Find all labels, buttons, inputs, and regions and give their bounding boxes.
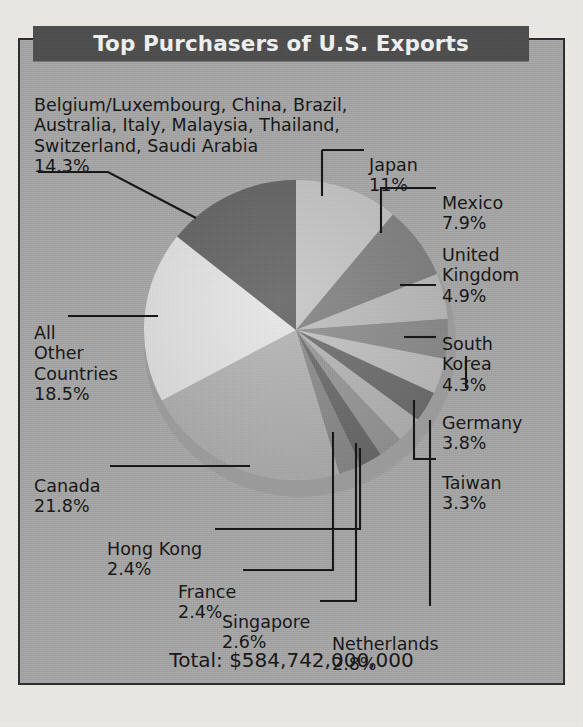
label-taiwan-pct: 3.3% (442, 493, 502, 514)
label-other-group: Belgium/Luxembourg, China, Brazil, Austr… (34, 74, 364, 197)
label-canada-pct: 21.8% (34, 496, 101, 517)
label-united-kingdom-pct: 4.9% (442, 286, 519, 307)
page-title: Top Purchasers of U.S. Exports (93, 31, 469, 56)
label-mexico-text: Mexico (442, 193, 503, 213)
leader-taiwan (414, 400, 436, 459)
label-taiwan-text: Taiwan (442, 473, 502, 493)
chart-title-bar: Top Purchasers of U.S. Exports (33, 26, 529, 61)
leader-hongkong (215, 448, 360, 529)
label-all-other-countries-text: All Other Countries (34, 323, 118, 384)
leader-france (243, 432, 333, 570)
label-canada-text: Canada (34, 476, 101, 496)
label-other-group-text: Belgium/Luxembourg, China, Brazil, Austr… (34, 95, 347, 156)
label-japan-text: Japan (369, 155, 418, 175)
label-japan: Japan 11% (369, 134, 418, 216)
label-united-kingdom: United Kingdom 4.9% (442, 224, 519, 327)
label-other-group-pct: 14.3% (34, 156, 364, 177)
total-label: Total: $584,742,000,000 (0, 648, 583, 672)
label-germany-pct: 3.8% (442, 433, 522, 454)
label-all-other-countries: All Other Countries 18.5% (34, 302, 118, 425)
label-taiwan: Taiwan 3.3% (442, 452, 502, 534)
leader-singapore (320, 443, 356, 601)
label-japan-pct: 11% (369, 175, 418, 196)
label-united-kingdom-text: United Kingdom (442, 245, 519, 286)
label-canada: Canada 21.8% (34, 455, 101, 537)
label-singapore-text: Singapore (222, 612, 310, 632)
label-south-korea-text: South Korea (442, 334, 493, 375)
label-germany-text: Germany (442, 413, 522, 433)
chart-page: Top Purchasers of U.S. Exports Belgium/L… (0, 0, 583, 727)
label-all-other-countries-pct: 18.5% (34, 384, 118, 405)
label-hong-kong-text: Hong Kong (107, 539, 202, 559)
